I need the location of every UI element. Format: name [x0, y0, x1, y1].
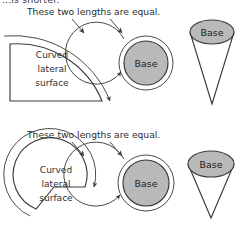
caption-arrows-bottom [72, 142, 122, 156]
base-circle-label-bottom: Base [135, 178, 158, 189]
sector-label-line-2-top: lateral [38, 64, 67, 74]
caption-arrows-top [72, 19, 122, 33]
sector-label-line-3-bottom: surface [39, 193, 73, 203]
cone-label-bottom: Base [200, 159, 223, 170]
panel-top: These two lengths are equal. Curved late… [4, 6, 234, 104]
panel-bottom: These two lengths are equal. Curved late… [4, 128, 234, 218]
base-circle-label-top: Base [135, 58, 158, 69]
cone-net-diagram: These two lengths are equal. Curved late… [0, 0, 242, 231]
base-circle-top [65, 22, 173, 90]
sector-label-line-1-bottom: Curved [40, 165, 72, 175]
sector-label-line-1-top: Curved [36, 50, 68, 60]
sector-label-line-3-top: surface [35, 78, 69, 88]
cone-label-top: Base [201, 27, 224, 38]
caption-top: These two lengths are equal. [26, 6, 160, 17]
diagram-page: ...is shorter. These two lengths are equ… [0, 0, 242, 231]
